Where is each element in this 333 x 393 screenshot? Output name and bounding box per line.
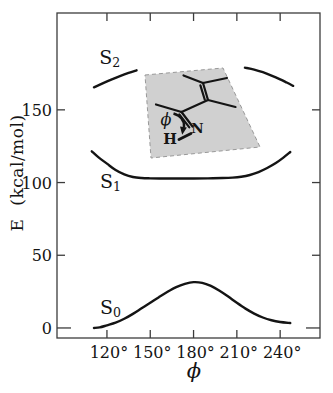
x-tick-label: 150° (133, 343, 172, 362)
y-tick-label: 50 (32, 246, 52, 265)
curve-label-subscript: 2 (112, 55, 120, 70)
x-axis-title: ϕ (187, 359, 201, 383)
curve-S2 (94, 70, 137, 87)
y-tick-label: 0 (42, 318, 52, 337)
hydrogen-label: H (163, 130, 177, 147)
x-tick-label: 240° (263, 343, 302, 362)
y-axis-title: E(kcal/mol) (7, 114, 27, 231)
phi-angle-label: ϕ (161, 110, 172, 129)
y-axis-symbol: E (7, 219, 27, 232)
x-tick-label: 120° (90, 343, 129, 362)
curve-label-main: S (99, 46, 112, 68)
plot-frame (57, 13, 320, 338)
curve-label-subscript: 1 (113, 179, 121, 194)
potential-energy-figure: ϕ N H 120°150°180°210°240°050100150S0S1S… (0, 0, 333, 393)
molecule-inset: ϕ N H (145, 68, 260, 158)
curve-label-main: S (100, 170, 113, 192)
curve-S0 (94, 282, 290, 328)
x-tick-label: 210° (220, 343, 259, 362)
curve-S1 (92, 151, 290, 178)
curve-label-S0: S0 (100, 296, 121, 321)
curve-label-subscript: 0 (113, 306, 121, 321)
curve-S2 (245, 68, 293, 86)
nitrogen-label: N (191, 120, 203, 136)
curve-label-S1: S1 (100, 170, 121, 195)
curve-label-S2: S2 (99, 46, 120, 71)
y-axis-unit: (kcal/mol) (7, 114, 27, 205)
plot-layer (57, 13, 320, 338)
curve-label-main: S (100, 296, 113, 318)
